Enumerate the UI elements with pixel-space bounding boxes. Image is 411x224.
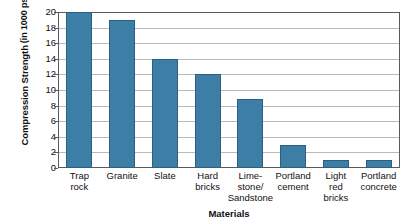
y-axis-tick-label: 12 bbox=[4, 69, 56, 79]
x-axis-label-line: rock bbox=[51, 181, 108, 192]
x-axis-label-line: Sandstone bbox=[222, 192, 279, 203]
gridline bbox=[59, 28, 399, 29]
gridline bbox=[59, 106, 399, 107]
x-axis-label-line: bricks bbox=[308, 192, 365, 203]
x-axis-label-line: concrete bbox=[350, 181, 407, 192]
gridline bbox=[59, 74, 399, 75]
y-axis-tick-mark bbox=[54, 168, 58, 169]
y-axis-tick-label: 18 bbox=[4, 23, 56, 33]
y-axis-tick-label: 20 bbox=[4, 7, 56, 17]
y-axis-tick-label: 0 bbox=[4, 163, 56, 173]
bar-chart: Compression Strength (in 1000 psi) 20181… bbox=[0, 0, 411, 224]
gridline bbox=[59, 59, 399, 60]
y-axis-tick-label: 8 bbox=[4, 101, 56, 111]
y-axis-ticks: 20181614121086420 bbox=[0, 12, 56, 168]
gridline bbox=[59, 90, 399, 91]
gridline bbox=[59, 137, 399, 138]
plot-area bbox=[58, 12, 400, 168]
x-axis-label-line: Portland bbox=[350, 170, 407, 181]
y-axis-tick-label: 16 bbox=[4, 38, 56, 48]
x-axis-category-label: Portlandconcrete bbox=[350, 170, 407, 192]
x-axis-title: Materials bbox=[58, 208, 400, 219]
y-axis-tick-label: 6 bbox=[4, 116, 56, 126]
y-axis-tick-label: 4 bbox=[4, 132, 56, 142]
gridline bbox=[59, 152, 399, 153]
gridline bbox=[59, 43, 399, 44]
x-axis-labels: TraprockGraniteSlateHardbricksLime-stone… bbox=[58, 170, 400, 208]
y-axis-tick-label: 14 bbox=[4, 54, 56, 64]
gridline bbox=[59, 121, 399, 122]
y-axis-tick-label: 10 bbox=[4, 85, 56, 95]
y-axis-tick-label: 2 bbox=[4, 147, 56, 157]
